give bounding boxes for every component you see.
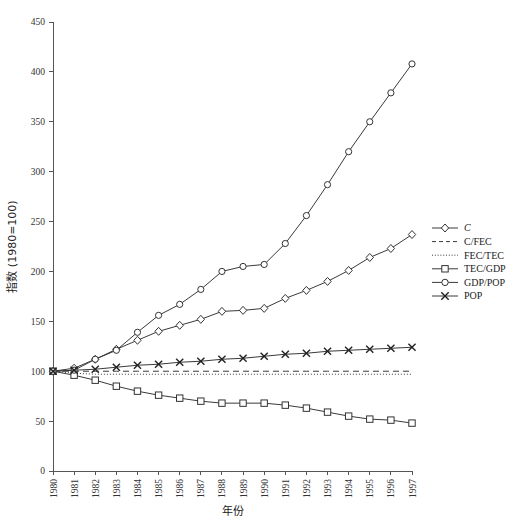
x-tick-label: 1992: [302, 479, 312, 498]
series-tec-gdp: [50, 368, 415, 426]
data-point-marker: [155, 312, 161, 318]
data-point-marker: [345, 413, 351, 419]
data-point-marker: [219, 268, 225, 274]
x-tick-label: 1994: [344, 479, 354, 498]
series-gdp-pop: [50, 61, 415, 375]
data-point-marker: [240, 263, 246, 269]
data-point-marker: [324, 409, 330, 415]
legend-label: TEC/GDP: [464, 263, 506, 274]
x-tick-label: 1990: [260, 479, 270, 498]
y-tick-label: 450: [31, 17, 46, 27]
legend-marker: [442, 266, 448, 272]
legend-marker: [441, 224, 448, 232]
data-point-marker: [92, 356, 98, 362]
data-point-marker: [409, 61, 415, 67]
data-point-marker: [261, 261, 267, 267]
x-tick-label: 1997: [408, 479, 418, 498]
data-point-marker: [177, 395, 183, 401]
y-tick-label: 0: [40, 466, 45, 476]
data-point-marker: [367, 416, 373, 422]
legend-item-pop[interactable]: POP: [432, 290, 483, 301]
y-tick-label: 100: [31, 367, 46, 377]
series-pop: [49, 344, 415, 375]
y-axis-title: 指数 (1980=100): [5, 200, 19, 292]
series-c: [49, 231, 415, 376]
data-point-marker: [282, 294, 289, 302]
x-tick-label: 1981: [70, 479, 80, 498]
data-point-marker: [155, 392, 161, 398]
data-point-marker: [345, 266, 352, 274]
data-point-marker: [134, 336, 141, 344]
legend-label: C: [464, 222, 471, 233]
series-path: [53, 64, 412, 371]
data-point-marker: [409, 420, 415, 426]
x-tick-label: 1984: [133, 479, 143, 498]
legend-item-fec-tec[interactable]: FEC/TEC: [432, 250, 504, 261]
data-point-marker: [408, 231, 415, 239]
x-tick-label: 1985: [154, 479, 164, 498]
data-point-marker: [218, 307, 225, 315]
data-point-marker: [282, 240, 288, 246]
x-tick-label: 1989: [239, 479, 249, 498]
x-tick-label: 1986: [175, 479, 185, 498]
data-point-marker: [113, 347, 119, 353]
data-point-marker: [177, 301, 183, 307]
x-tick-label: 1995: [365, 479, 375, 498]
y-tick-label: 250: [31, 217, 46, 227]
data-point-marker: [92, 377, 98, 383]
chart-figure: 0501001502002503003504004501980198119821…: [0, 0, 519, 527]
legend-item-tec-gdp[interactable]: TEC/GDP: [432, 263, 506, 274]
line-chart: 0501001502002503003504004501980198119821…: [0, 0, 519, 527]
y-tick-label: 50: [36, 417, 46, 427]
data-point-marker: [261, 304, 268, 312]
data-point-marker: [346, 149, 352, 155]
x-tick-label: 1988: [217, 479, 227, 498]
x-tick-label: 1987: [196, 479, 206, 498]
legend-marker: [442, 279, 448, 285]
data-point-marker: [239, 306, 246, 314]
legend: CC/FECFEC/TECTEC/GDPGDP/POPPOP: [432, 222, 506, 301]
data-point-marker: [324, 182, 330, 188]
legend-label: GDP/POP: [464, 277, 506, 288]
data-point-marker: [367, 119, 373, 125]
data-point-marker: [240, 400, 246, 406]
y-tick-label: 400: [31, 67, 46, 77]
x-tick-label: 1996: [386, 479, 396, 498]
data-point-marker: [303, 286, 310, 294]
data-point-marker: [134, 329, 140, 335]
series-path: [53, 347, 412, 371]
data-point-marker: [176, 321, 183, 329]
y-tick-label: 200: [31, 267, 46, 277]
x-tick-label: 1982: [91, 479, 101, 498]
series-path: [53, 235, 412, 372]
data-point-marker: [197, 315, 204, 323]
data-point-marker: [134, 388, 140, 394]
legend-label: C/FEC: [464, 236, 492, 247]
legend-item-c[interactable]: C: [432, 222, 471, 233]
data-point-marker: [155, 327, 162, 335]
data-point-marker: [366, 253, 373, 261]
data-point-marker: [387, 245, 394, 253]
x-tick-label: 1991: [281, 479, 291, 498]
data-point-marker: [388, 417, 394, 423]
legend-label: FEC/TEC: [464, 250, 504, 261]
data-point-marker: [303, 212, 309, 218]
data-point-marker: [303, 405, 309, 411]
legend-item-gdp-pop[interactable]: GDP/POP: [432, 277, 506, 288]
x-tick-label: 1980: [49, 479, 59, 498]
data-point-marker: [198, 398, 204, 404]
data-point-marker: [198, 286, 204, 292]
data-point-marker: [282, 402, 288, 408]
x-tick-label: 1983: [112, 479, 122, 498]
legend-label: POP: [464, 290, 483, 301]
y-tick-label: 300: [31, 167, 46, 177]
x-tick-label: 1993: [323, 479, 333, 498]
data-point-marker: [219, 400, 225, 406]
series-path: [53, 371, 412, 423]
y-tick-label: 150: [31, 317, 46, 327]
y-tick-label: 350: [31, 117, 46, 127]
x-axis-title: 年份: [222, 504, 244, 518]
legend-item-c-fec[interactable]: C/FEC: [432, 236, 492, 247]
data-point-marker: [324, 277, 331, 285]
data-point-marker: [388, 90, 394, 96]
